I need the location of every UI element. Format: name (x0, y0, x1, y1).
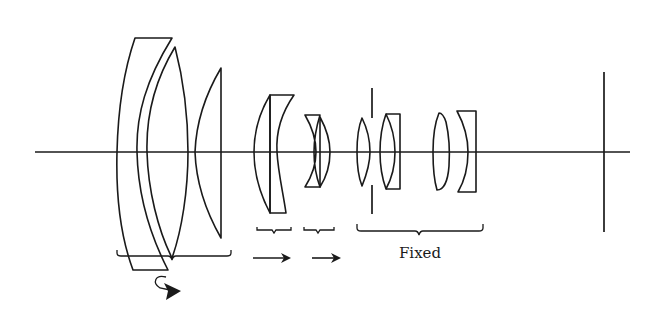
group2-bracket (257, 227, 291, 233)
lens-element (305, 115, 320, 187)
lens-element (270, 95, 294, 213)
lens-diagram: Fixed (0, 0, 656, 326)
group3-bracket (304, 227, 334, 233)
lens-element (195, 68, 221, 238)
lens-element (254, 95, 270, 213)
lens-group-3 (305, 115, 330, 187)
curved-arrow-head (164, 283, 181, 300)
lens-group-2 (254, 95, 294, 213)
fixed-label: Fixed (399, 244, 442, 262)
lens-element (117, 38, 172, 270)
group4-bracket (357, 224, 483, 235)
lens-group-1 (117, 38, 221, 270)
